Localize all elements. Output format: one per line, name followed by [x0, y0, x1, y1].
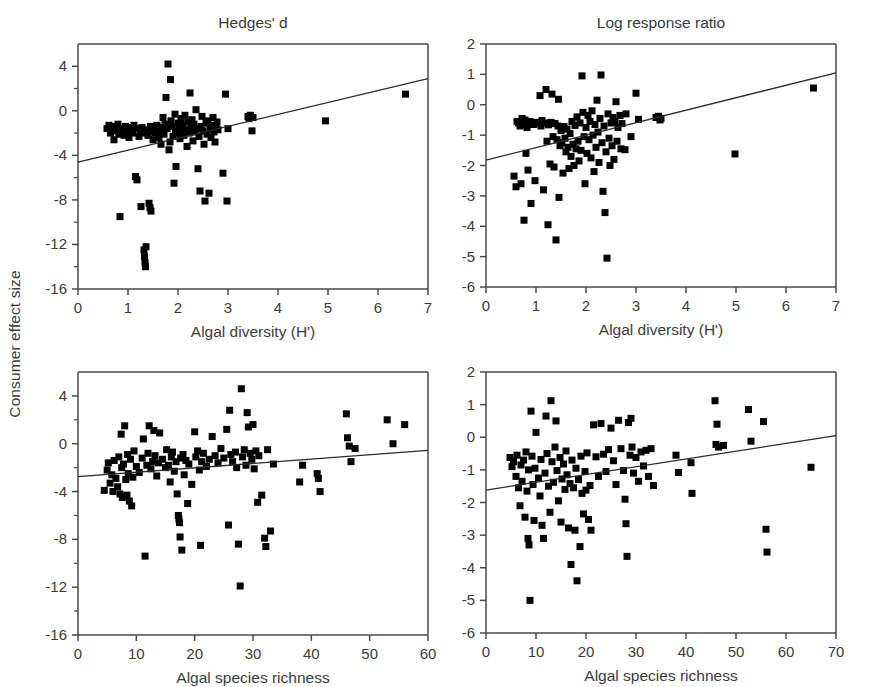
data-point [617, 112, 624, 119]
data-point [224, 198, 231, 205]
data-point [577, 543, 584, 550]
data-point [514, 452, 521, 459]
data-point [596, 159, 603, 166]
data-point [199, 113, 206, 120]
data-point [760, 418, 767, 425]
data-point [555, 96, 562, 103]
x-tick-label-top-left-3: 3 [224, 299, 232, 316]
data-point [209, 433, 216, 440]
data-point [588, 527, 595, 534]
y-tick-label-bottom-left-3: -8 [54, 530, 67, 547]
data-point [588, 154, 595, 161]
y-tick-label-top-right-0: 2 [467, 35, 475, 52]
figure-canvas: Hedges' d40-4-8-12-1601234567Algal diver… [0, 0, 871, 687]
data-point [590, 421, 597, 428]
data-point [138, 203, 145, 210]
x-axis-label-top-right: Algal diversity (H') [599, 321, 723, 338]
data-point [526, 541, 533, 548]
data-point [525, 466, 532, 473]
x-tick-label-bottom-right-0: 0 [482, 643, 490, 660]
x-tick-label-top-left-2: 2 [174, 299, 182, 316]
data-point [551, 164, 558, 171]
data-point [538, 456, 545, 463]
data-point [543, 86, 550, 93]
data-point [648, 445, 655, 452]
data-point [200, 450, 207, 457]
data-point [315, 475, 322, 482]
y-tick-label-top-left-4: -12 [45, 235, 67, 252]
data-point [177, 533, 184, 540]
data-point [645, 473, 652, 480]
data-point [570, 484, 577, 491]
x-tick-label-bottom-right-1: 10 [528, 643, 545, 660]
data-point [528, 408, 535, 415]
y-tick-label-top-left-3: -8 [54, 191, 67, 208]
data-point [222, 91, 229, 98]
data-point [258, 492, 265, 499]
data-point [568, 561, 575, 568]
data-point [101, 487, 108, 494]
data-point [537, 92, 544, 99]
data-point [579, 72, 586, 79]
data-point [537, 492, 544, 499]
data-point [569, 457, 576, 464]
y-tick-label-bottom-right-8: -6 [462, 624, 475, 641]
data-point [220, 455, 227, 462]
data-point [140, 435, 147, 442]
data-point [628, 415, 635, 422]
data-point [521, 217, 528, 224]
data-point [532, 177, 539, 184]
data-point [299, 462, 306, 469]
data-point [524, 488, 531, 495]
data-point [243, 462, 250, 469]
data-point [589, 107, 596, 114]
x-tick-label-bottom-right-4: 40 [678, 643, 695, 660]
data-point [255, 452, 262, 459]
data-point [235, 541, 242, 548]
data-point [217, 445, 224, 452]
y-tick-label-top-left-0: 4 [59, 57, 67, 74]
data-point [165, 61, 172, 68]
panel-bottom-right: 210-1-2-3-4-5-6010203040506070Algal spec… [462, 363, 845, 684]
data-point [195, 165, 202, 172]
data-point [148, 208, 155, 215]
data-point [201, 141, 208, 148]
data-point [623, 520, 630, 527]
data-point [543, 413, 550, 420]
data-point [549, 458, 556, 465]
data-point [190, 137, 197, 144]
data-point [131, 447, 138, 454]
data-point [602, 209, 609, 216]
data-point [763, 526, 770, 533]
data-point [522, 514, 529, 521]
x-tick-label-top-right-5: 5 [732, 297, 740, 314]
data-point [532, 465, 539, 472]
data-point [167, 478, 174, 485]
data-point [614, 138, 621, 145]
data-point [191, 428, 198, 435]
data-point [384, 416, 391, 423]
data-point [117, 213, 124, 220]
data-point [611, 156, 618, 163]
x-tick-label-bottom-left-6: 60 [420, 645, 437, 662]
data-point [264, 446, 271, 453]
panel-bottom-left: 40-4-8-12-160102030405060Algal species r… [45, 372, 436, 686]
data-point [114, 483, 121, 490]
data-point [402, 91, 409, 98]
data-point [182, 112, 189, 119]
y-tick-label-bottom-right-0: 2 [467, 363, 475, 380]
data-point [518, 180, 525, 187]
data-point [165, 462, 172, 469]
data-point [603, 148, 610, 155]
y-tick-label-top-right-1: 1 [467, 65, 475, 82]
panel-top-left: Hedges' d40-4-8-12-1601234567Algal diver… [45, 14, 432, 340]
data-point [212, 452, 219, 459]
y-tick-label-bottom-right-6: -4 [462, 559, 475, 576]
data-point [225, 522, 232, 529]
data-point [627, 452, 634, 459]
trendline-top-left [78, 79, 428, 163]
data-point [599, 139, 606, 146]
data-point [610, 457, 617, 464]
data-point [531, 517, 538, 524]
data-point [112, 475, 119, 482]
